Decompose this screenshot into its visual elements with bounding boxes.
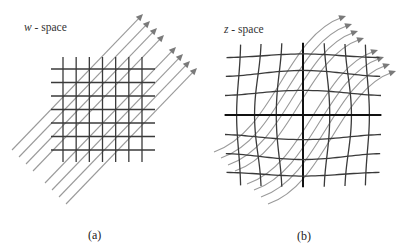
flow-line	[59, 64, 187, 197]
panel-caption-b: (b)	[297, 230, 311, 242]
flow-curve	[254, 58, 380, 190]
arrow-head	[388, 70, 396, 76]
panel-z-space	[214, 15, 396, 204]
z-space-label: z - space	[224, 24, 264, 36]
arrow-head	[344, 23, 352, 29]
space-suffix: - space	[32, 21, 67, 33]
arrow-head	[338, 15, 346, 21]
panel-w-space	[12, 14, 197, 204]
figure-canvas	[0, 0, 414, 251]
arrow-head	[350, 30, 358, 36]
flow-line	[45, 50, 173, 183]
grid-b	[225, 43, 382, 187]
w-space-label: w - space	[24, 22, 67, 34]
arrow-head	[370, 49, 378, 55]
flow-line	[66, 71, 194, 204]
arrow-head	[356, 37, 364, 43]
arrow-head	[382, 63, 390, 69]
space-variable-w: w	[24, 21, 32, 33]
flow-line	[26, 31, 154, 164]
space-suffix: - space	[228, 23, 263, 35]
grid-a	[51, 57, 155, 162]
panel-caption-a: (a)	[88, 229, 101, 241]
